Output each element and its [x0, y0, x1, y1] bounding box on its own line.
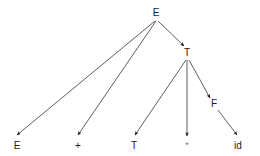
tree-edges	[17, 21, 237, 136]
tree-node-star-leaf: *	[185, 140, 189, 150]
tree-node-T-leaf: T	[131, 141, 137, 151]
tree-edge-E-root-to-E-leaf	[17, 21, 155, 135]
tree-edge-F-mid-to-id-leaf	[218, 110, 237, 135]
tree-node-id-leaf: id	[234, 141, 242, 151]
tree-edge-T-mid-to-F-mid	[189, 60, 210, 98]
tree-node-F-mid: F	[211, 99, 217, 109]
tree-edge-layer	[0, 0, 260, 156]
tree-edge-T-mid-to-T-leaf	[135, 60, 186, 135]
tree-node-plus-leaf: +	[75, 141, 81, 151]
tree-edge-E-root-to-plus-leaf	[78, 21, 156, 135]
tree-node-T-mid: T	[184, 48, 190, 58]
parse-tree-diagram: ETFE+T*id	[0, 0, 260, 156]
tree-node-E-leaf: E	[14, 141, 21, 151]
tree-edge-E-root-to-T-mid	[158, 21, 184, 46]
tree-node-E-root: E	[153, 8, 160, 18]
